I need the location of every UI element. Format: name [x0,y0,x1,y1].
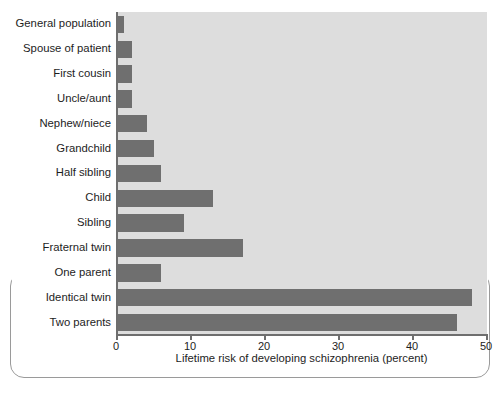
bar-row: Spouse of patient [0,37,503,62]
schizophrenia-risk-bar-chart: General populationSpouse of patientFirst… [0,0,503,370]
category-label: Nephew/niece [0,118,111,129]
category-label: Spouse of patient [0,43,111,54]
category-label: One parent [0,267,111,278]
bar-row: Sibling [0,211,503,236]
category-label: Two parents [0,317,111,328]
category-label: First cousin [0,68,111,79]
bar-row: First cousin [0,62,503,87]
bar [117,165,161,182]
x-tick-label: 0 [96,341,136,352]
bar-rows: General populationSpouse of patientFirst… [0,12,503,335]
bar-row: Grandchild [0,136,503,161]
bar [117,41,132,58]
category-label: Sibling [0,217,111,228]
bar [117,115,147,132]
category-label: Identical twin [0,292,111,303]
category-label: General population [0,18,111,29]
y-axis-line [116,12,118,335]
bar-row: Two parents [0,310,503,335]
category-label: Child [0,192,111,203]
x-axis-title: Lifetime risk of developing schizophreni… [116,353,487,364]
bar-row: Fraternal twin [0,236,503,261]
bar-row: One parent [0,260,503,285]
bar-row: Uncle/aunt [0,87,503,112]
bar [117,264,161,281]
category-label: Grandchild [0,143,111,154]
x-tick-label: 50 [466,341,503,352]
x-tick-label: 30 [318,341,358,352]
category-label: Half sibling [0,167,111,178]
bar [117,190,213,207]
bar-row: Identical twin [0,285,503,310]
bar [117,289,472,306]
bar [117,65,132,82]
x-tick-label: 10 [170,341,210,352]
bar-row: General population [0,12,503,37]
x-tick-label: 20 [244,341,284,352]
bar-row: Child [0,186,503,211]
bar-row: Half sibling [0,161,503,186]
bar [117,214,184,231]
x-tick-label: 40 [392,341,432,352]
bar [117,239,243,256]
bar [117,314,457,331]
bar [117,140,154,157]
bar [117,90,132,107]
bar [117,16,124,33]
category-label: Uncle/aunt [0,93,111,104]
category-label: Fraternal twin [0,242,111,253]
bar-row: Nephew/niece [0,111,503,136]
